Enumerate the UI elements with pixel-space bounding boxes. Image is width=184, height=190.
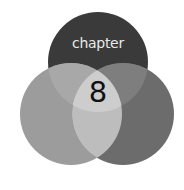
chapter-label: chapter	[58, 34, 138, 52]
chapter-number: 8	[68, 76, 128, 108]
